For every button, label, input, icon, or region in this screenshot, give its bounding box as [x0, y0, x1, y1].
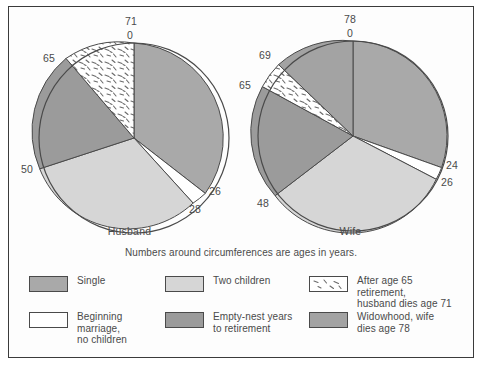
age-label-26: 26 — [441, 176, 453, 188]
chart-note: Numbers around circumferences are ages i… — [9, 247, 473, 258]
age-label-69: 69 — [259, 49, 271, 61]
pie-chart-wife: 78 0 24 26 48 65 69 Wife — [234, 7, 467, 245]
legend-swatch-two-children — [165, 276, 204, 292]
age-label-0: 0 — [127, 29, 133, 41]
legend-label-single: Single — [77, 275, 105, 287]
legend-item-single[interactable]: Single — [29, 275, 105, 292]
legend-swatch-single — [29, 276, 68, 292]
legend-swatch-empty-nest — [165, 312, 204, 328]
pie-slices-wife — [251, 40, 447, 233]
pie-slices-husband — [32, 42, 223, 229]
age-label-28: 28 — [189, 203, 201, 215]
legend-swatch-widowhood — [309, 312, 348, 328]
legend-swatch-after-retirement — [309, 276, 348, 292]
legend-column-3: After age 65 retirement, husband dies ag… — [309, 273, 459, 351]
chart-caption-husband: Husband — [13, 225, 246, 237]
legend-swatch-beginning-marriage — [29, 312, 68, 328]
pie-svg-husband — [13, 7, 246, 245]
legend-label-two-children: Two children — [213, 275, 270, 287]
legend-column-1: Single Beginning marriage, no children — [29, 273, 179, 351]
figure-frame: 71 0 26 28 50 65 Husband — [8, 6, 474, 358]
charts-row: 71 0 26 28 50 65 Husband — [9, 7, 473, 245]
legend-item-after-retirement[interactable]: After age 65 retirement, husband dies ag… — [309, 275, 459, 310]
legend-item-widowhood[interactable]: Widowhood, wife dies age 78 — [309, 311, 434, 334]
age-label-24: 24 — [446, 159, 458, 171]
legend-item-beginning-marriage[interactable]: Beginning marriage, no children — [29, 311, 127, 346]
age-label-50: 50 — [21, 163, 33, 175]
legend-label-widowhood: Widowhood, wife dies age 78 — [357, 311, 434, 334]
pie-chart-husband: 71 0 26 28 50 65 Husband — [13, 7, 246, 245]
legend-column-2: Two children Empty-nest years to retirem… — [165, 273, 315, 351]
legend-label-empty-nest: Empty-nest years to retirement — [213, 311, 292, 334]
legend-label-after-retirement: After age 65 retirement, husband dies ag… — [357, 275, 459, 310]
age-label-65: 65 — [43, 52, 55, 64]
legend-item-empty-nest[interactable]: Empty-nest years to retirement — [165, 311, 292, 334]
legend: Single Beginning marriage, no children T… — [23, 273, 461, 351]
legend-item-two-children[interactable]: Two children — [165, 275, 270, 292]
age-label-26: 26 — [209, 185, 221, 197]
chart-caption-wife: Wife — [234, 225, 467, 237]
age-label-0: 0 — [347, 27, 353, 39]
legend-label-beginning-marriage: Beginning marriage, no children — [77, 311, 127, 346]
age-label-65: 65 — [239, 79, 251, 91]
age-label-71: 71 — [125, 15, 137, 27]
age-label-48: 48 — [257, 197, 269, 209]
age-label-78: 78 — [344, 13, 356, 25]
pie-svg-wife — [234, 7, 467, 245]
dash-pattern-icon — [310, 277, 347, 291]
